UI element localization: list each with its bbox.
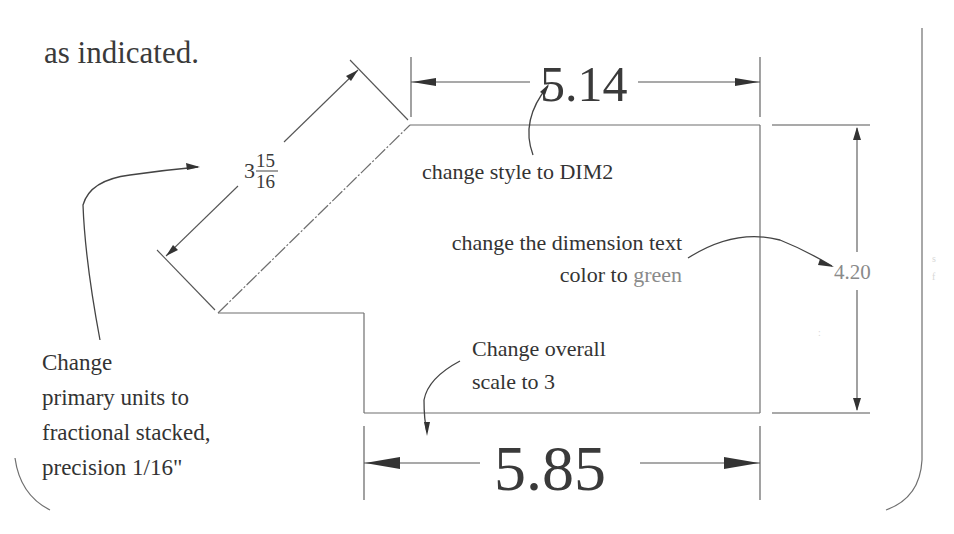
- dimension-angled[interactable]: 3 15 16: [157, 60, 408, 310]
- intro-text: as indicated.: [44, 35, 199, 70]
- note-units: Change primary units to fractional stack…: [42, 163, 211, 480]
- drawing-canvas: as indicated. 5.14 5.85: [0, 0, 954, 534]
- note-scale-line1: Change overall: [472, 336, 606, 361]
- note-color: change the dimension text color to green: [452, 230, 834, 287]
- frame-border-right: [886, 28, 922, 510]
- arrowhead-icon: [724, 457, 759, 469]
- note-color-line1: change the dimension text: [452, 230, 682, 255]
- note-color-value: green: [633, 262, 682, 287]
- dimension-bottom[interactable]: 5.85: [364, 426, 760, 504]
- note-scale-line2: scale to 3: [472, 369, 555, 394]
- dimension-bottom-text: 5.85: [494, 433, 606, 504]
- arrowhead-icon: [818, 259, 834, 267]
- note-color-line2: color to green: [560, 262, 682, 287]
- arrowhead-icon: [853, 398, 861, 411]
- dimension-right-text: 4.20: [834, 260, 871, 284]
- dimension-top[interactable]: 5.14: [411, 56, 760, 117]
- note-style-text: change style to DIM2: [422, 159, 613, 184]
- note-color-prefix: color to: [560, 262, 633, 287]
- arrowhead-icon: [186, 163, 200, 170]
- leader-line: [83, 167, 198, 340]
- svg-text:f: f: [932, 271, 936, 282]
- dimension-right[interactable]: 4.20: [772, 125, 871, 413]
- dimension-top-text: 5.14: [540, 56, 628, 112]
- note-units-line4: precision 1/16": [42, 455, 182, 480]
- svg-text::: :: [818, 327, 821, 338]
- svg-text:s: s: [932, 253, 936, 264]
- note-units-line2: primary units to: [42, 385, 189, 410]
- arrowhead-icon: [365, 457, 400, 469]
- note-scale: Change overall scale to 3: [424, 336, 606, 436]
- arrowhead-icon: [424, 422, 430, 436]
- arrowhead-icon: [412, 78, 436, 86]
- note-units-line3: fractional stacked,: [42, 420, 211, 445]
- dimension-angled-whole: 3: [244, 158, 255, 183]
- dimension-angled-numerator: 15: [256, 150, 275, 171]
- dimension-angled-denominator: 16: [256, 171, 275, 192]
- arrowhead-icon: [853, 127, 861, 140]
- note-units-line1: Change: [42, 350, 112, 375]
- arrowhead-icon: [735, 78, 759, 86]
- leader-line: [424, 361, 460, 432]
